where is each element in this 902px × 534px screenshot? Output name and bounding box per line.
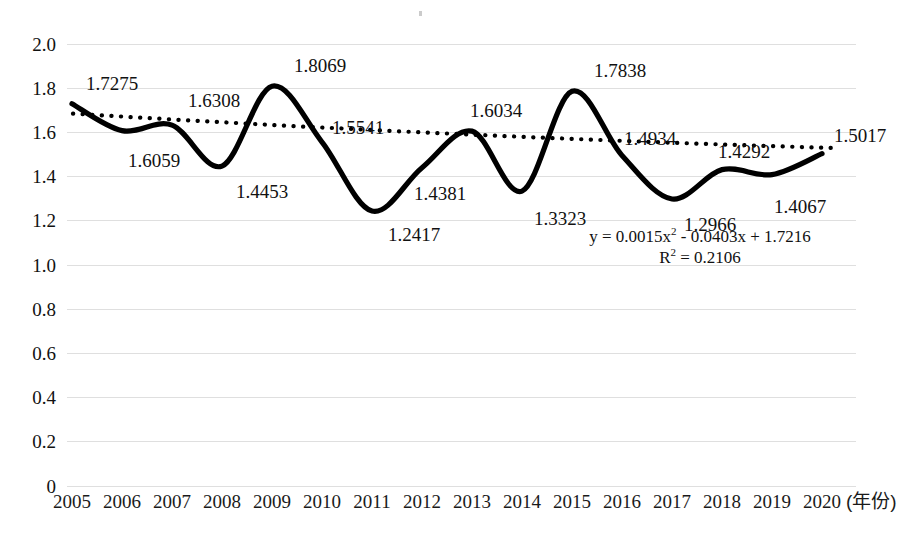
data-label-2019: 1.4067 bbox=[774, 197, 826, 216]
data-label-2013: 1.6034 bbox=[470, 101, 522, 120]
trendline-equation-annotation: y = 0.0015x2 - 0.0403x + 1.7216 R2 = 0.2… bbox=[560, 226, 840, 268]
x-axis-tick-2019: 2019 bbox=[747, 492, 797, 511]
x-axis-unit-label: (年份) bbox=[846, 492, 897, 511]
x-axis-tick-2009: 2009 bbox=[247, 492, 297, 511]
x-axis-tick-2012: 2012 bbox=[397, 492, 447, 511]
data-label-2009: 1.8069 bbox=[294, 56, 346, 75]
data-label-2018: 1.4292 bbox=[718, 142, 770, 161]
x-axis-tick-2006: 2006 bbox=[97, 492, 147, 511]
x-axis-tick-2005: 2005 bbox=[47, 492, 97, 511]
data-label-2012: 1.4381 bbox=[414, 184, 466, 203]
x-axis-tick-2008: 2008 bbox=[197, 492, 247, 511]
x-axis-tick-2015: 2015 bbox=[547, 492, 597, 511]
x-axis-tick-2007: 2007 bbox=[147, 492, 197, 511]
data-label-2008: 1.4453 bbox=[236, 182, 288, 201]
x-axis-tick-2016: 2016 bbox=[597, 492, 647, 511]
data-label-2016: 1.4934 bbox=[624, 129, 676, 148]
x-axis-tick-2011: 2011 bbox=[347, 492, 397, 511]
data-label-2005: 1.7275 bbox=[86, 74, 138, 93]
regression-equation: y = 0.0015x2 - 0.0403x + 1.7216 bbox=[560, 226, 840, 247]
data-label-2006: 1.6059 bbox=[128, 151, 180, 170]
data-label-2020: 1.5017 bbox=[834, 126, 886, 145]
equation-prefix: y = 0.0015x bbox=[589, 227, 671, 246]
data-label-2011: 1.2417 bbox=[388, 225, 440, 244]
r-squared-prefix: R bbox=[659, 248, 670, 267]
x-axis-tick-2017: 2017 bbox=[647, 492, 697, 511]
r-squared-value: R2 = 0.2106 bbox=[560, 247, 840, 268]
x-axis-tick-2010: 2010 bbox=[297, 492, 347, 511]
x-axis-tick-2013: 2013 bbox=[447, 492, 497, 511]
data-label-2010: 1.5541 bbox=[332, 118, 384, 137]
chart-container: 00.20.40.60.81.01.21.41.61.82.0 1.72751.… bbox=[0, 0, 902, 534]
equation-suffix: - 0.0403x + 1.7216 bbox=[677, 227, 811, 246]
data-label-2015: 1.7838 bbox=[594, 61, 646, 80]
data-label-2007: 1.6308 bbox=[188, 91, 240, 110]
x-axis-tick-2014: 2014 bbox=[497, 492, 547, 511]
x-axis-tick-2020: 2020 bbox=[797, 492, 847, 511]
r-squared-suffix: = 0.2106 bbox=[676, 248, 741, 267]
x-axis-tick-2018: 2018 bbox=[697, 492, 747, 511]
